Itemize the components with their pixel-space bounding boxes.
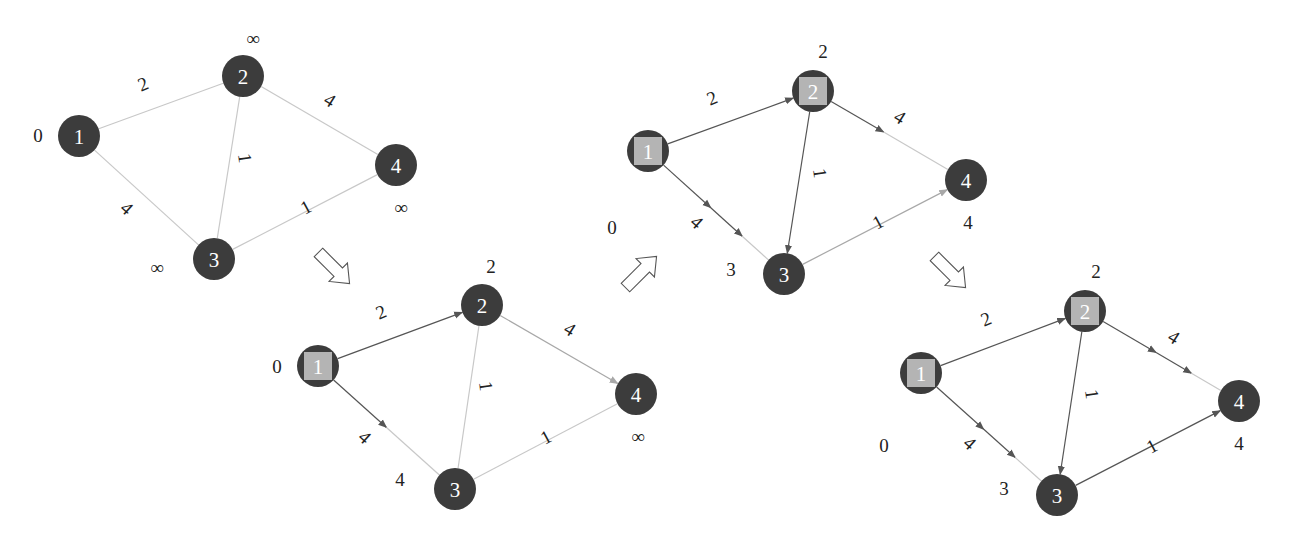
edge-weight-label: 4 — [354, 426, 375, 448]
edge-1-3: 4 — [334, 380, 440, 475]
edge-3-4: 1 — [474, 404, 618, 479]
node-label: 4 — [631, 383, 642, 407]
node-2: 22 — [461, 256, 503, 327]
distance-label: 4 — [963, 212, 973, 233]
step-arrow-3-to-4-icon — [925, 247, 974, 296]
distance-label: 0 — [272, 356, 282, 377]
edge-2-4: 4 — [831, 102, 948, 170]
edge-weight-label: 1 — [234, 152, 256, 164]
step-arrow-2-to-3-icon — [616, 247, 665, 296]
edge-weight-label: 2 — [373, 300, 390, 323]
edge-3-4: 1 — [803, 190, 948, 265]
distance-label: 2 — [818, 41, 828, 62]
distance-label: 0 — [879, 435, 889, 456]
edge-1-3: 4 — [937, 387, 1042, 481]
step-arrow-1-to-2-icon — [309, 243, 358, 292]
node-2: 2∞ — [222, 28, 264, 98]
distance-label: 2 — [1091, 261, 1101, 282]
edge-weight-label: 1 — [1081, 388, 1103, 400]
node-label: 4 — [1234, 390, 1245, 414]
edge-weight-label: 4 — [1164, 326, 1184, 349]
edge-1-2: 2 — [99, 72, 224, 128]
edge-2-3: 1 — [458, 326, 497, 468]
distance-label: ∞ — [394, 197, 408, 218]
edge-1-3: 4 — [664, 165, 769, 260]
edge-weight-label: 4 — [890, 106, 910, 129]
edge-1-2: 2 — [668, 86, 794, 143]
distance-label: 0 — [607, 217, 617, 238]
edge-2-3: 1 — [787, 112, 831, 254]
node-label: 2 — [808, 80, 819, 104]
node-1: 10 — [33, 115, 100, 157]
node-label: 4 — [961, 169, 972, 193]
node-label: 1 — [313, 355, 324, 379]
panel-initial: 24141102∞3∞4∞ — [33, 28, 417, 281]
node-4: 4∞ — [615, 373, 657, 447]
edge-2-4: 4 — [1103, 322, 1221, 391]
panel-step-1: 241411022344∞ — [272, 256, 657, 511]
node-label: 2 — [238, 65, 249, 89]
edge-weight-label: 1 — [809, 167, 831, 179]
edge-weight-label: 4 — [959, 432, 980, 454]
panel-step-2: 2414110223344 — [607, 41, 987, 296]
distance-label: 0 — [33, 125, 43, 146]
dijkstra-diagram: 24141102∞3∞4∞241411022344∞24141102233442… — [0, 0, 1293, 547]
edge-2-3: 1 — [217, 97, 256, 239]
edge-2-4: 4 — [261, 87, 378, 155]
edge-weight-label: 2 — [704, 86, 721, 109]
node-label: 2 — [477, 294, 488, 318]
edge-1-2: 2 — [941, 307, 1066, 365]
edge-weight-label: 2 — [978, 307, 995, 330]
edge-weight-label: 4 — [320, 89, 340, 112]
distance-label: 2 — [486, 256, 496, 277]
panel-step-3: 2414110223344 — [879, 261, 1260, 517]
node-3: 33 — [999, 474, 1078, 516]
edge-1-2: 2 — [338, 300, 463, 358]
node-label: 1 — [916, 362, 927, 386]
distance-label: ∞ — [631, 426, 645, 447]
edge-weight-label: 4 — [686, 211, 707, 233]
node-2: 22 — [792, 41, 834, 113]
node-label: 3 — [209, 248, 220, 272]
edge-2-4: 4 — [500, 316, 618, 384]
distance-label: 4 — [1234, 433, 1244, 454]
node-2: 22 — [1064, 261, 1106, 333]
edge-weight-label: 4 — [116, 197, 137, 219]
edge-2-3: 1 — [1060, 332, 1103, 474]
node-4: 44 — [1218, 380, 1260, 454]
node-1: 10 — [272, 345, 339, 387]
node-label: 1 — [74, 125, 85, 149]
edge-1-3: 4 — [95, 150, 199, 245]
node-3: 33 — [726, 253, 805, 295]
edge-weight-label: 2 — [135, 72, 152, 95]
node-label: 1 — [643, 140, 654, 164]
distance-label: 3 — [726, 259, 736, 280]
node-label: 4 — [391, 154, 402, 178]
edge-weight-label: 1 — [475, 380, 497, 392]
node-label: 3 — [1052, 484, 1063, 508]
node-1: 10 — [607, 130, 669, 238]
node-4: 44 — [945, 159, 987, 233]
distance-label: ∞ — [246, 28, 260, 49]
node-1: 10 — [879, 352, 942, 456]
step-arrows — [309, 243, 974, 296]
edge-3-4: 1 — [233, 175, 378, 250]
edge-3-4: 1 — [1076, 411, 1221, 486]
node-label: 2 — [1080, 300, 1091, 324]
edge-weight-label: 1 — [1143, 434, 1161, 457]
node-4: 4∞ — [375, 144, 417, 218]
distance-label: 4 — [395, 469, 405, 490]
node-label: 3 — [779, 263, 790, 287]
distance-label: 3 — [999, 478, 1009, 499]
node-3: 3∞ — [150, 238, 235, 280]
edge-weight-label: 4 — [560, 318, 580, 341]
node-3: 34 — [395, 468, 476, 510]
distance-label: ∞ — [150, 257, 164, 278]
node-label: 3 — [450, 478, 461, 502]
